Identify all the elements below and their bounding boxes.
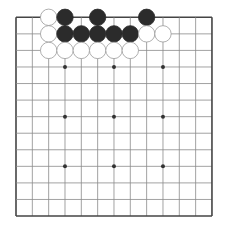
white-stone[interactable] [73,42,89,58]
star-point [63,65,67,69]
black-stone[interactable] [57,26,73,42]
black-stone[interactable] [73,26,89,42]
stones [40,9,171,59]
white-stone[interactable] [89,42,105,58]
black-stone[interactable] [122,26,138,42]
white-stone[interactable] [138,26,154,42]
black-stone[interactable] [57,9,73,25]
star-point [161,65,165,69]
white-stone[interactable] [40,26,56,42]
white-stone[interactable] [40,9,56,25]
white-stone[interactable] [106,42,122,58]
star-point [112,164,116,168]
white-stone[interactable] [122,42,138,58]
black-stone[interactable] [138,9,154,25]
star-point [112,115,116,119]
go-board[interactable] [0,0,226,232]
white-stone[interactable] [57,42,73,58]
black-stone[interactable] [89,9,105,25]
star-point [112,65,116,69]
black-stone[interactable] [89,26,105,42]
star-point [63,115,67,119]
star-point [161,164,165,168]
white-stone[interactable] [40,42,56,58]
white-stone[interactable] [155,26,171,42]
star-point [161,115,165,119]
star-point [63,164,67,168]
black-stone[interactable] [106,26,122,42]
